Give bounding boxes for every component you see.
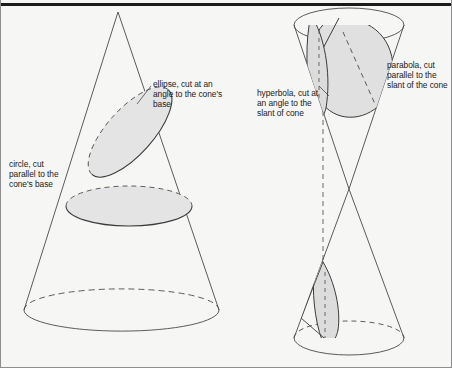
lower-cone-base-front-arc	[294, 338, 404, 355]
hyperbola-cross-section-lower	[301, 259, 339, 344]
label-ellipse: ellipse, cut at an angle to the cone's b…	[153, 79, 229, 110]
upper-cone-rim-back-arc	[294, 8, 404, 25]
label-circle: circle, cut parallel to the cone's base	[9, 159, 69, 190]
label-hyperbola: hyperbola, cut at an angle to the slant …	[257, 88, 319, 119]
lower-cone-slant-right	[349, 189, 404, 338]
circle-cross-section	[66, 186, 192, 226]
conic-sections-figure: ellipse, cut at an angle to the cone's b…	[0, 0, 452, 368]
left-cone-base-back-arc	[24, 289, 219, 310]
hyperbola-cut-outline-lower	[313, 259, 338, 344]
left-cone-base-front-arc	[24, 310, 219, 331]
lower-cone-base-back-arc	[294, 321, 404, 338]
label-parabola: parabola, cut parallel to the slant of t…	[387, 60, 452, 91]
